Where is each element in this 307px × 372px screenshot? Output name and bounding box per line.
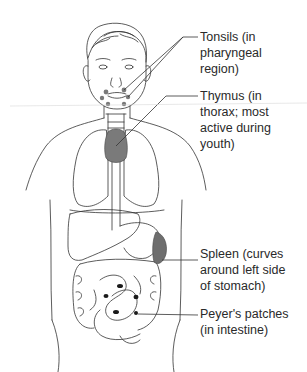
leader-lines (116, 37, 198, 315)
large-intestine (73, 259, 161, 330)
tonsil-tissue (100, 88, 130, 107)
tonsils-leader (124, 37, 198, 97)
peyers-leader (138, 314, 198, 315)
right-lung (124, 130, 159, 207)
small-intestine (94, 275, 140, 343)
peyers-patches-label: Peyer's patches (in intestine) (200, 306, 289, 338)
spleen-organ (153, 232, 167, 264)
hair (88, 32, 146, 63)
thymus-label: Thymus (in thorax; most active during yo… (200, 88, 271, 152)
left-lung (73, 130, 108, 207)
left-ear (83, 66, 90, 82)
lymphoid-organs-diagram: Tonsils (in pharyngeal region) Thymus (i… (0, 0, 307, 372)
spleen-label: Spleen (curves around left side of stoma… (200, 246, 285, 294)
torso-left (26, 118, 104, 190)
tonsils-label: Tonsils (in pharyngeal region) (200, 29, 262, 77)
liver (68, 210, 140, 261)
thymus-leader (116, 96, 198, 146)
torso-right (130, 118, 206, 190)
peyers-patches-organ (104, 284, 139, 315)
